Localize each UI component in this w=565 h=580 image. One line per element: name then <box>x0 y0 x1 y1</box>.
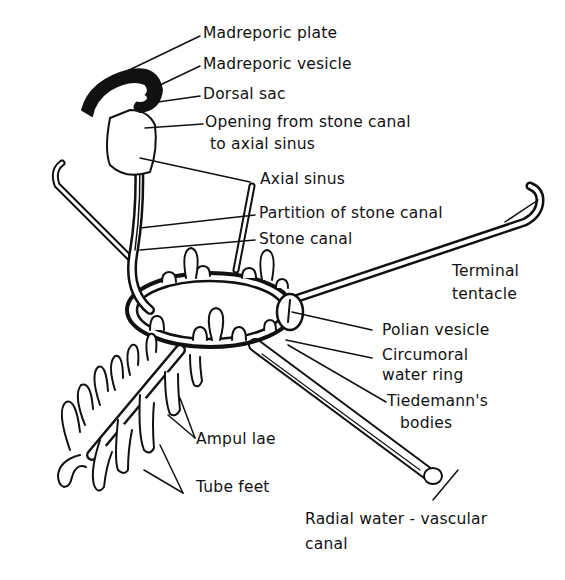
label-circumoral-line1: Circumoral <box>382 346 468 365</box>
label-ampullae: Ampul lae <box>196 430 276 449</box>
label-tube-feet: Tube feet <box>196 478 270 497</box>
label-radial-line2: canal <box>305 535 348 554</box>
label-radial-line1: Radial water - vascular <box>305 510 487 529</box>
label-circumoral-line2: water ring <box>382 366 463 385</box>
label-dorsal-sac: Dorsal sac <box>203 85 286 104</box>
label-madreporic-plate: Madreporic plate <box>203 24 337 43</box>
label-axial-sinus: Axial sinus <box>260 170 345 189</box>
axial-sinus-body <box>107 110 156 175</box>
madreporic-plate <box>82 69 162 116</box>
label-tiedemann-line1: Tiedemann's <box>387 392 488 411</box>
back-arm <box>236 186 252 270</box>
label-tiedemann-line2: bodies <box>400 414 452 433</box>
label-stone-canal: Stone canal <box>259 230 353 249</box>
label-polian-vesicle: Polian vesicle <box>382 321 489 340</box>
water-vascular-system-diagram: Madreporic plate Madreporic vesicle Dors… <box>0 0 565 580</box>
label-partition-of-stone-canal: Partition of stone canal <box>259 204 443 223</box>
label-opening-line2: to axial sinus <box>210 135 315 154</box>
label-madreporic-vesicle: Madreporic vesicle <box>203 55 352 74</box>
left-arm <box>55 163 130 258</box>
label-opening-line1: Opening from stone canal <box>205 113 411 132</box>
polian-vesicle-right <box>277 294 303 330</box>
label-terminal-line1: Terminal <box>452 262 519 281</box>
label-terminal-line2: tentacle <box>452 285 517 304</box>
